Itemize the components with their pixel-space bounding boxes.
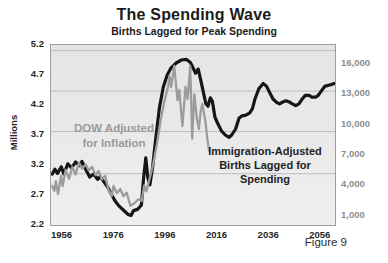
y-left-tick: 2.7 — [14, 188, 44, 200]
y-left-tick: 4.2 — [14, 98, 44, 110]
x-tick: 1976 — [91, 229, 135, 241]
y-right-tick: 13,000 — [341, 87, 381, 99]
figure-label: Figure 9 — [305, 236, 347, 248]
dow-series-label: DOW Adjusted for Inflation — [73, 121, 155, 151]
x-tick: 2016 — [195, 229, 239, 241]
plot-area: DOW Adjusted for Inflation Immigration-A… — [50, 44, 336, 226]
x-tick: 1996 — [143, 229, 187, 241]
y-left-tick: 3.7 — [14, 128, 44, 140]
page-title: The Spending Wave — [0, 6, 388, 24]
x-tick: 1956 — [40, 229, 84, 241]
spending-wave-chart: The Spending Wave Births Lagged for Peak… — [0, 0, 388, 263]
y-left-tick: 3.2 — [14, 158, 44, 170]
births-series-label: Immigration-Adjusted Births Lagged for S… — [199, 145, 331, 187]
y-right-tick: 10,000 — [341, 118, 381, 130]
y-right-tick: 4,000 — [341, 178, 381, 190]
y-right-tick: 1,000 — [341, 209, 381, 221]
x-tick: 2036 — [246, 229, 290, 241]
y-right-tick: 16,000 — [341, 57, 381, 69]
y-left-tick: 5.2 — [14, 38, 44, 50]
y-right-tick: 7,000 — [341, 148, 381, 160]
y-left-tick: 4.7 — [14, 68, 44, 80]
chart-subtitle: Births Lagged for Peak Spending — [0, 25, 388, 37]
